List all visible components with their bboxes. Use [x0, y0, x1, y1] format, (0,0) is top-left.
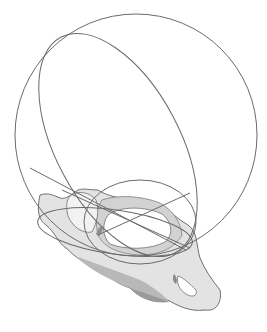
pelvis-diagram	[0, 0, 267, 332]
pelvis-illustration	[0, 0, 267, 332]
